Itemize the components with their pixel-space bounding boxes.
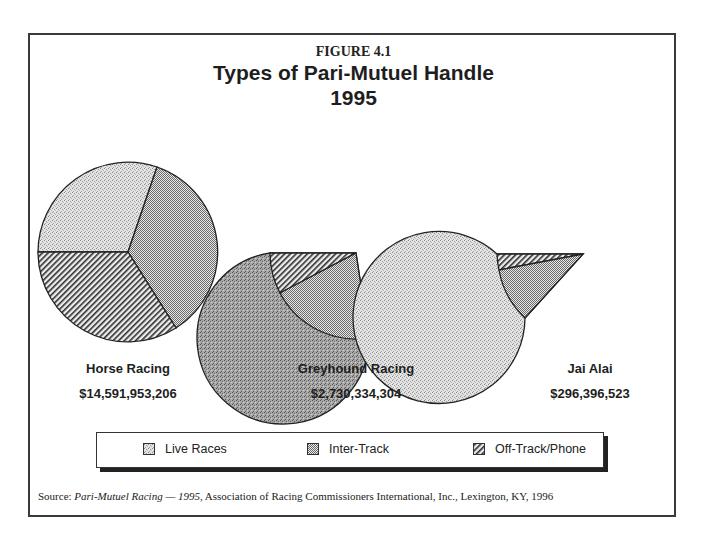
legend-label: Live Races <box>165 442 227 456</box>
pie-label-jai-alai: Jai Alai <box>515 361 665 376</box>
live-races-swatch-icon <box>143 443 155 455</box>
pie-jai-alai <box>353 231 583 403</box>
inter-track-swatch-icon <box>307 443 319 455</box>
source-note: Source: Pari-Mutuel Racing — 1995, Assoc… <box>38 490 553 502</box>
legend-label: Off-Track/Phone <box>495 442 586 456</box>
pie-horse-racing <box>38 162 218 342</box>
legend-item-off-track-phone: Off-Track/Phone <box>473 442 586 456</box>
pie-label-greyhound-racing: Greyhound Racing <box>276 361 436 376</box>
pie-label-horse-racing: Horse Racing <box>48 361 208 376</box>
pie-value-jai-alai: $296,396,523 <box>515 386 665 401</box>
source-rest: , Association of Racing Commissioners In… <box>200 490 553 502</box>
source-title: Pari-Mutuel Racing — 1995 <box>74 490 200 502</box>
chart-legend: Live Races Inter-Track Off-Track/Phone <box>96 432 604 468</box>
legend-item-live-races: Live Races <box>143 442 227 456</box>
source-prefix: Source: <box>38 490 74 502</box>
off-track-phone-swatch-icon <box>473 443 485 455</box>
legend-label: Inter-Track <box>329 442 389 456</box>
pie-value-greyhound-racing: $2,730,334,304 <box>276 386 436 401</box>
legend-item-inter-track: Inter-Track <box>307 442 389 456</box>
pie-value-horse-racing: $14,591,953,206 <box>48 386 208 401</box>
